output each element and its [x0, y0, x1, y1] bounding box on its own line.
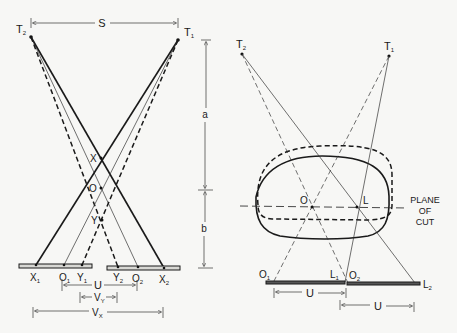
separation-dimension: S [31, 17, 178, 29]
svg-text:U: U [374, 300, 382, 312]
ray-t1-l1 [345, 56, 389, 282]
label-o2: O2 [132, 273, 144, 285]
label-t1-right: T1 [384, 40, 395, 53]
label-o: O [89, 183, 97, 194]
label-t1: T1 [184, 26, 195, 39]
label-x1: X1 [30, 272, 41, 284]
ray-t2-y2 [31, 37, 118, 267]
label-t2-right: T2 [236, 38, 247, 51]
right-diagram: T2 T1 PLANE OF CUT O L O1 L1 O2 L2 [236, 38, 440, 312]
dimension-u2-right: U [340, 300, 414, 312]
label-t2: T2 [16, 23, 27, 36]
label-s: S [98, 17, 105, 29]
svg-text:VY: VY [94, 292, 105, 304]
ray-t2-o2 [31, 37, 138, 267]
svg-text:U: U [306, 287, 314, 299]
svg-text:VX: VX [92, 307, 103, 319]
label-y1: Y1 [77, 272, 88, 284]
film-plate-right-b [347, 282, 420, 285]
label-b: b [201, 223, 207, 234]
stereo-localization-diagram: S T2 T1 X O Y X1 O1 Y1 Y2 [0, 0, 457, 333]
plane-label-line3: CUT [416, 217, 435, 227]
plane-label-line2: OF [419, 206, 432, 216]
svg-text:U: U [94, 279, 102, 291]
label-y: Y [91, 215, 98, 226]
dimension-vx: VX [33, 307, 163, 319]
ray-t2-x2 [31, 37, 164, 268]
ray-t1-x1 [36, 40, 178, 265]
label-y2: Y2 [113, 272, 124, 284]
label-x: X [90, 153, 97, 164]
dimension-u: U [62, 279, 137, 291]
label-l-right: L [363, 195, 369, 206]
label-l1-right: L1 [330, 269, 340, 281]
label-x2: X2 [159, 274, 170, 286]
dimension-u1-right: U [274, 287, 346, 299]
label-o2-right: O2 [349, 270, 361, 282]
label-l2-right: L2 [423, 279, 433, 291]
label-o1-right: O1 [259, 269, 271, 281]
dimension-vy: VY [80, 292, 117, 304]
ray-t2-o2 [242, 54, 348, 283]
label-o-right: O [300, 195, 308, 206]
plane-of-cut-line [240, 206, 408, 208]
label-a: a [202, 109, 208, 120]
film-plate-right-a [266, 281, 345, 284]
ray-t2-l2 [242, 54, 415, 283]
left-diagram: S T2 T1 X O Y X1 O1 Y1 Y2 [16, 17, 213, 319]
dimension-a-b: a b [198, 40, 213, 268]
plane-label-line1: PLANE [410, 195, 440, 205]
object-outline-solid [256, 156, 389, 239]
label-o1: O1 [59, 272, 71, 284]
